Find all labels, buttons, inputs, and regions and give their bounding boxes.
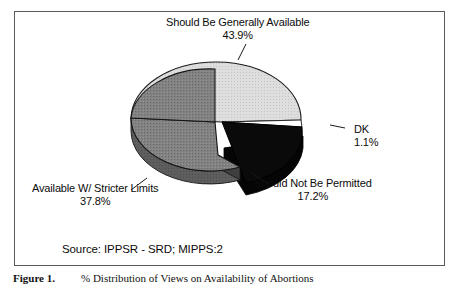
pie-label-stricter-limits: Available W/ Stricter Limits 37.8%	[32, 182, 158, 208]
pie-label-stricter-limits-pct: 37.8%	[32, 195, 158, 208]
pie-label-generally-available-pct: 43.9%	[166, 29, 309, 42]
pie-label-not-permitted-name: Should Not Be Permitted	[254, 177, 372, 189]
figure-caption: Figure 1.% Distribution of Views on Avai…	[13, 272, 314, 284]
chart-frame	[14, 11, 445, 266]
figure-caption-label: Figure 1.	[13, 272, 55, 284]
pie-label-not-permitted-pct: 17.2%	[254, 190, 372, 203]
pie-label-generally-available-name: Should Be Generally Available	[166, 16, 309, 28]
pie-label-dk: DK 1.1%	[354, 123, 378, 149]
pie-label-not-permitted: Should Not Be Permitted 17.2%	[254, 177, 372, 203]
pie-label-dk-pct: 1.1%	[354, 136, 378, 149]
pie-label-stricter-limits-name: Available W/ Stricter Limits	[32, 182, 158, 194]
pie-label-generally-available: Should Be Generally Available 43.9%	[166, 16, 309, 42]
figure-caption-text: % Distribution of Views on Availability …	[81, 272, 314, 284]
source-note: Source: IPPSR - SRD; MIPPS:2	[62, 243, 223, 255]
pie-label-dk-name: DK	[354, 123, 369, 135]
